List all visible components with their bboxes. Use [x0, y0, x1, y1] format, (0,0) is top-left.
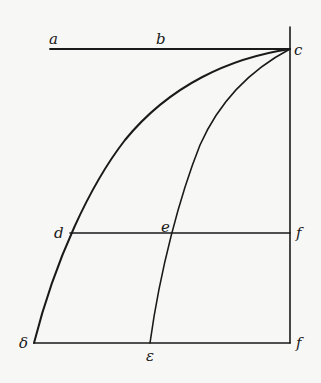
label-epsilon: ε	[146, 347, 154, 365]
label-e: e	[161, 218, 170, 236]
label-delta: δ	[19, 334, 28, 352]
geometric-diagram: a b c d e f δ ε f	[0, 0, 321, 383]
label-c: c	[294, 41, 303, 59]
curve-inner-c-epsilon	[150, 49, 290, 343]
label-a: a	[49, 30, 58, 48]
label-b: b	[156, 30, 166, 48]
curve-outer-c-delta	[34, 49, 290, 343]
label-f-upper: f	[295, 224, 304, 242]
label-f-lower: f	[295, 334, 304, 352]
label-d: d	[54, 224, 64, 242]
